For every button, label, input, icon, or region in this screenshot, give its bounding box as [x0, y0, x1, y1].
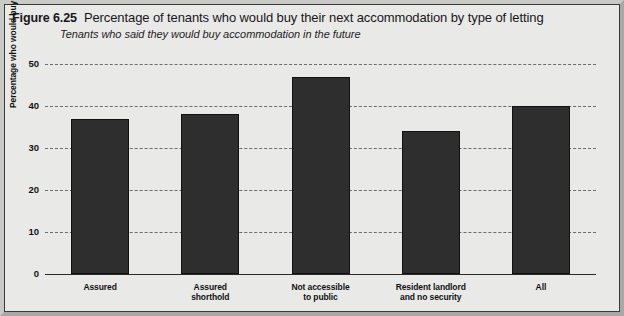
y-axis-tick-label: 40 — [12, 100, 39, 111]
figure-title-line: Figure 6.25 Percentage of tenants who wo… — [12, 10, 608, 25]
chart-plot-area: Percentage who would buy next 0102030405… — [12, 56, 610, 304]
y-axis-tick-label: 10 — [12, 226, 39, 237]
bar — [292, 77, 350, 274]
x-axis-tick-label: Not accessibleto public — [265, 282, 375, 302]
y-axis-tick-label: 30 — [12, 142, 39, 153]
chart-axes: 01020304050 — [45, 64, 605, 274]
bar — [181, 114, 239, 274]
x-axis-tick-label: All — [486, 282, 596, 292]
x-axis-line — [45, 274, 596, 275]
x-axis-tick-labels: AssuredAssuredshortholdNot accessibleto … — [45, 278, 596, 304]
gridline — [45, 64, 596, 65]
y-axis-tick-label: 20 — [12, 184, 39, 195]
y-axis-label: Percentage who would buy next — [8, 0, 18, 108]
figure-subtitle: Tenants who said they would buy accommod… — [60, 28, 608, 40]
bar — [71, 119, 129, 274]
figure-number: Figure 6.25 — [12, 11, 77, 25]
x-axis-tick-label: Assuredshorthold — [155, 282, 265, 302]
figure-header: Figure 6.25 Percentage of tenants who wo… — [12, 10, 608, 40]
x-axis-tick-label: Resident landlordand no security — [376, 282, 486, 302]
x-axis-tick-label: Assured — [45, 282, 155, 292]
figure-container: Figure 6.25 Percentage of tenants who wo… — [0, 0, 624, 316]
bar — [512, 106, 570, 274]
y-axis-tick-label: 0 — [12, 268, 39, 279]
page-title: Percentage of tenants who would buy thei… — [84, 10, 544, 25]
y-axis-tick-label: 50 — [12, 58, 39, 69]
bar — [402, 131, 460, 274]
